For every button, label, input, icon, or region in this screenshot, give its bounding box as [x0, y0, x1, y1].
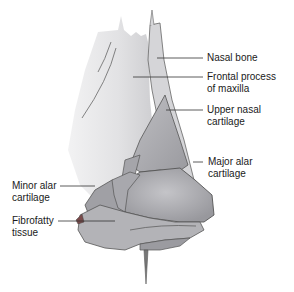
label-upper-nasal-cartilage: Upper nasal cartilage	[207, 104, 261, 127]
label-fibrofatty-tissue: Fibrofatty tissue	[12, 215, 54, 238]
nasal-bone-spike	[150, 10, 154, 25]
label-major-alar-cartilage: Major alar cartilage	[208, 156, 252, 179]
label-nasal-bone: Nasal bone	[207, 52, 258, 64]
nasal-anatomy-illustration	[0, 0, 294, 292]
label-minor-alar-cartilage: Minor alar cartilage	[12, 180, 56, 203]
nasal-spine	[144, 250, 148, 284]
label-frontal-process-of-maxilla: Frontal process of maxilla	[207, 71, 276, 94]
